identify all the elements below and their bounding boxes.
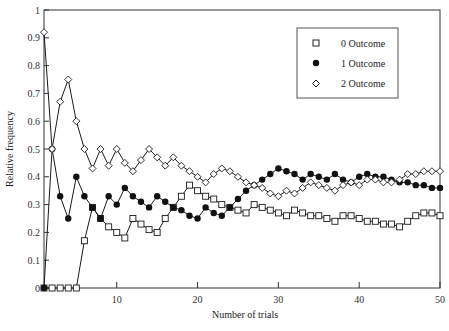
open-diamond-marker — [243, 179, 250, 186]
open-diamond-marker — [194, 173, 201, 180]
filled-circle-marker — [138, 199, 144, 205]
y-tick-label: 0.4 — [28, 171, 41, 182]
open-diamond-marker — [89, 165, 96, 172]
open-diamond-marker — [234, 173, 241, 180]
open-diamond-marker — [57, 98, 64, 105]
filled-circle-marker — [162, 199, 168, 205]
open-square-marker — [203, 193, 209, 199]
open-square-marker — [146, 227, 152, 233]
filled-circle-marker — [324, 176, 330, 182]
open-square-marker — [162, 216, 168, 222]
open-diamond-marker — [356, 182, 363, 189]
open-square-marker — [178, 193, 184, 199]
filled-circle-marker — [235, 196, 241, 202]
y-tick-label: 0.9 — [28, 32, 41, 43]
open-square-marker — [308, 213, 314, 219]
filled-circle-marker — [243, 188, 249, 194]
filled-circle-marker — [122, 185, 128, 191]
open-diamond-marker — [251, 182, 258, 189]
y-tick-label: 0 — [35, 283, 40, 294]
open-square-marker — [275, 210, 281, 216]
open-square-marker — [114, 229, 120, 235]
open-diamond-marker — [275, 193, 282, 200]
open-diamond-marker — [364, 176, 371, 183]
x-tick-label: 20 — [193, 294, 203, 305]
open-diamond-marker — [259, 184, 266, 191]
open-diamond-marker — [331, 187, 338, 194]
filled-circle-marker — [227, 204, 233, 210]
open-square-marker — [122, 235, 128, 241]
y-tick-label: 0.1 — [28, 255, 41, 266]
open-diamond-marker — [186, 168, 193, 175]
open-square-marker — [65, 285, 71, 291]
filled-circle-marker — [267, 171, 273, 177]
filled-circle-marker — [81, 193, 87, 199]
open-square-marker — [235, 207, 241, 213]
open-square-marker — [372, 218, 378, 224]
open-diamond-marker — [323, 184, 330, 191]
y-tick-label: 0.3 — [28, 199, 41, 210]
open-diamond-marker — [404, 171, 411, 178]
open-square-marker — [154, 229, 160, 235]
open-diamond-marker — [137, 157, 144, 164]
legend-label: 0 Outcome — [341, 38, 386, 49]
open-square-marker — [195, 188, 201, 194]
open-square-marker — [138, 221, 144, 227]
open-diamond-marker — [348, 179, 355, 186]
filled-circle-marker — [130, 193, 136, 199]
y-tick-label: 1 — [35, 5, 40, 16]
filled-circle-marker — [186, 213, 192, 219]
filled-circle-marker — [65, 215, 71, 221]
open-diamond-marker — [97, 146, 104, 153]
open-diamond-marker — [113, 146, 120, 153]
open-square-marker — [251, 202, 257, 208]
open-diamond-marker — [218, 165, 225, 172]
filled-circle-marker — [283, 168, 289, 174]
filled-circle-marker — [89, 204, 95, 210]
open-square-marker — [405, 218, 411, 224]
x-tick-label: 30 — [273, 294, 283, 305]
x-axis: 1020304050 — [112, 282, 445, 305]
legend: 0 Outcome 1 Outcome 2 Outcome — [297, 28, 398, 98]
open-square-marker — [211, 196, 217, 202]
y-tick-label: 0.8 — [28, 60, 41, 71]
open-square-marker — [389, 221, 395, 227]
filled-circle-marker — [413, 182, 419, 188]
open-square-marker — [356, 216, 362, 222]
open-square-marker — [106, 224, 112, 230]
open-diamond-marker — [226, 168, 233, 175]
open-diamond-marker — [299, 184, 306, 191]
y-tick-label: 0.5 — [28, 144, 41, 155]
x-tick-label: 50 — [435, 294, 445, 305]
filled-circle-marker — [105, 193, 111, 199]
x-axis-label: Number of trials — [212, 309, 278, 320]
open-square-marker — [332, 218, 338, 224]
filled-circle-marker — [146, 204, 152, 210]
filled-circle-marker — [154, 193, 160, 199]
open-square-marker — [267, 207, 273, 213]
series-line — [44, 185, 440, 288]
filled-circle-icon — [313, 60, 319, 66]
open-square-marker — [130, 216, 136, 222]
x-tick-label: 40 — [354, 294, 364, 305]
filled-circle-marker — [211, 210, 217, 216]
open-square-marker — [421, 210, 427, 216]
open-diamond-marker — [437, 168, 444, 175]
legend-label: 2 Outcome — [341, 78, 386, 89]
open-diamond-marker — [412, 171, 419, 178]
open-square-marker — [397, 224, 403, 230]
filled-circle-marker — [178, 207, 184, 213]
open-diamond-marker — [380, 179, 387, 186]
open-square-marker — [81, 238, 87, 244]
y-tick-label: 0.6 — [28, 116, 41, 127]
filled-circle-marker — [194, 215, 200, 221]
filled-circle-marker — [332, 171, 338, 177]
open-square-marker — [437, 213, 443, 219]
x-tick-label: 10 — [112, 294, 122, 305]
filled-circle-marker — [404, 179, 410, 185]
filled-circle-marker — [259, 176, 265, 182]
filled-circle-marker — [356, 174, 362, 180]
y-tick-label: 0.7 — [28, 88, 41, 99]
filled-circle-marker — [275, 165, 281, 171]
open-square-marker — [429, 210, 435, 216]
